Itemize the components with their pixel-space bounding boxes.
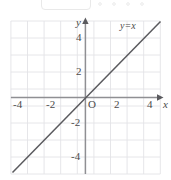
y-tick-neg2: -2 [71, 117, 80, 128]
x-axis-label: x [163, 99, 168, 110]
x-tick-neg2: -2 [46, 99, 55, 110]
y-tick-2: 2 [76, 66, 82, 77]
x-tick-4: 4 [147, 99, 153, 110]
y-tick-neg4: -4 [71, 151, 80, 162]
graph-screenshot: y x y=x O 4 2 -2 -4 -4 -2 2 4 [0, 0, 171, 180]
equation-label: y=x [120, 20, 136, 31]
x-tick-2: 2 [114, 99, 120, 110]
coordinate-plane [0, 0, 171, 180]
x-tick-neg4: -4 [13, 99, 22, 110]
y-tick-4: 4 [76, 32, 82, 43]
origin-label: O [88, 99, 96, 110]
y-axis-label: y [76, 17, 81, 28]
